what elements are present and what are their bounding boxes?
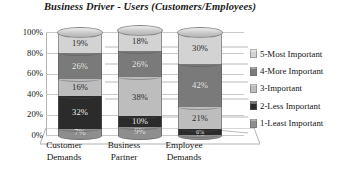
bar-segment[interactable]: 42% (178, 64, 222, 107)
legend-item-label: 3-Important (260, 83, 302, 93)
bar-segment[interactable]: 32% (58, 96, 102, 129)
bar-segment[interactable]: 26% (118, 51, 162, 78)
x-axis-category-label: EmployeeDemands (148, 140, 220, 163)
bar-segment-value-label: 30% (192, 44, 208, 53)
bar-segment-value-label: 6% (196, 129, 204, 135)
legend-color-swatch (250, 119, 257, 128)
y-axis-tick-label: 80% (0, 48, 43, 58)
bar-segment-value-label: 7% (74, 129, 85, 136)
legend-item-label: 5-Most Important (260, 49, 322, 59)
legend-item-label: 4-More Important (260, 66, 323, 76)
legend-color-swatch (250, 84, 257, 93)
bar-segment-value-label: 26% (72, 62, 88, 71)
bar-segment-value-label: 38% (132, 93, 148, 102)
bar-segment-value-label: 42% (192, 81, 208, 90)
chart-title: Business Driver - Users (Customers/Emplo… (0, 1, 300, 12)
bar-segment-value-label: 19% (72, 39, 88, 48)
legend-color-swatch (250, 67, 257, 76)
chart-container: Business Driver - Users (Customers/Emplo… (0, 0, 358, 176)
stacked-bar[interactable]: 7%32%16%26%19% (58, 32, 102, 136)
y-axis-tick-label: 100% (0, 27, 43, 37)
category-label-line2: Demands (148, 152, 220, 164)
y-axis-tick-label: 60% (0, 68, 43, 78)
bar-segment[interactable]: 7% (58, 129, 102, 136)
bar-segment[interactable]: 16% (58, 79, 102, 95)
bar-segment[interactable]: 38% (118, 77, 162, 116)
legend-item[interactable]: 5-Most Important (250, 45, 358, 62)
legend-item[interactable]: 3-Important (250, 80, 358, 97)
legend-color-swatch (250, 101, 257, 110)
legend: 5-Most Important4-More Important3-Import… (250, 45, 358, 132)
bar-segment-value-label: 26% (132, 60, 148, 69)
y-axis-tick-label: 0% (0, 130, 43, 140)
legend-item[interactable]: 1-Least Important (250, 115, 358, 132)
bar-segment[interactable]: 6% (178, 129, 222, 135)
bar-segment[interactable]: 30% (178, 33, 222, 64)
bar-segment-value-label: 9% (134, 127, 145, 136)
bar-segment-value-label: 10% (132, 117, 148, 126)
legend-item-label: 1-Least Important (260, 118, 323, 128)
legend-color-swatch (250, 49, 257, 58)
bar-segment[interactable]: 10% (118, 116, 162, 126)
bar-segment-value-label: 18% (132, 37, 148, 46)
bar-segment-value-label: 1% (196, 135, 204, 136)
bar-segment-value-label: 32% (72, 108, 88, 117)
cylinder-top (177, 27, 223, 38)
y-axis-tick-label: 40% (0, 89, 43, 99)
bar-segment[interactable]: 26% (58, 53, 102, 80)
bar-segment-value-label: 21% (192, 114, 208, 123)
bar-group: 7%32%16%26%19%9%10%38%26%18%1%6%21%42%30… (46, 32, 244, 136)
stacked-bar[interactable]: 9%10%38%26%18% (118, 32, 162, 136)
bar-segment[interactable]: 1% (178, 135, 222, 136)
y-axis-labels: 100%80%60%40%20%0% (0, 32, 44, 136)
cylinder-top (57, 27, 103, 38)
bar-segment[interactable]: 21% (178, 107, 222, 129)
y-axis-tick-label: 20% (0, 109, 43, 119)
category-label-line1: Employee (148, 140, 220, 152)
stacked-bar[interactable]: 1%6%21%42%30% (178, 32, 222, 136)
legend-item[interactable]: 4-More Important (250, 62, 358, 79)
bar-segment-value-label: 16% (72, 83, 88, 92)
legend-item[interactable]: 2-Less Important (250, 97, 358, 114)
x-axis-labels: CustomerDemandsBusinessPartnerEmployeeDe… (40, 140, 255, 174)
bar-segment[interactable]: 9% (118, 127, 162, 136)
legend-item-label: 2-Less Important (260, 101, 320, 111)
